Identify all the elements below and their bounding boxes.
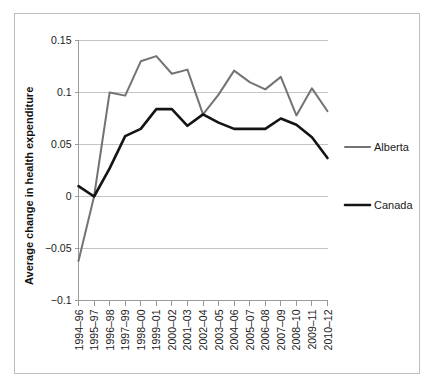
x-tick-label: 2005–07 — [244, 309, 256, 350]
y-axis-tick-labels: 0.150.10.050−0.05−0.1 — [45, 34, 72, 306]
x-tick-label: 1997–99 — [119, 309, 131, 350]
x-tick-label: 1998–00 — [135, 309, 147, 350]
gridlines — [79, 41, 328, 249]
series-line-alberta — [79, 56, 328, 261]
data-series — [79, 56, 328, 261]
x-tick-label: 2000–02 — [166, 309, 178, 350]
x-tick-label: 1994–96 — [73, 309, 85, 350]
x-tick-label: 2008–10 — [290, 309, 302, 350]
x-tick-label: 2007–09 — [275, 309, 287, 350]
x-tick-label: 2002–04 — [197, 309, 209, 350]
x-tick-label: 2006–08 — [259, 309, 271, 350]
y-tick-label: −0.05 — [45, 242, 72, 254]
y-axis-title: Average change in health expenditure — [23, 87, 35, 285]
legend-label-canada: Canada — [374, 199, 413, 211]
x-tick-label: 1999–01 — [150, 309, 162, 350]
chart-container: 0.150.10.050−0.05−0.1 1994–961995–971996… — [0, 0, 435, 390]
y-tick-label: 0.15 — [51, 34, 72, 46]
chart-legend: AlbertaCanada — [345, 141, 413, 211]
x-tick-label: 1995–97 — [88, 309, 100, 350]
x-tick-label: 2001–03 — [181, 309, 193, 350]
y-tick-label: 0.1 — [57, 86, 72, 98]
y-tick-label: 0.05 — [51, 138, 72, 150]
x-tick-label: 1996–98 — [104, 309, 116, 350]
y-tick-label: −0.1 — [51, 294, 72, 306]
x-tick-label: 2003–05 — [213, 309, 225, 350]
line-chart-plot: 0.150.10.050−0.05−0.1 1994–961995–971996… — [0, 0, 435, 390]
y-tick-label: 0 — [66, 190, 72, 202]
series-line-canada — [79, 109, 328, 196]
x-tick-label: 2009–11 — [306, 309, 318, 349]
legend-label-alberta: Alberta — [374, 141, 410, 153]
x-axis-tick-labels: 1994–961995–971996–981997–991998–001999–… — [73, 309, 334, 350]
x-tick-label: 2004–06 — [228, 309, 240, 350]
x-axis-ticks — [79, 301, 328, 306]
axis-lines — [79, 41, 328, 301]
x-tick-label: 2010–12 — [322, 309, 334, 350]
